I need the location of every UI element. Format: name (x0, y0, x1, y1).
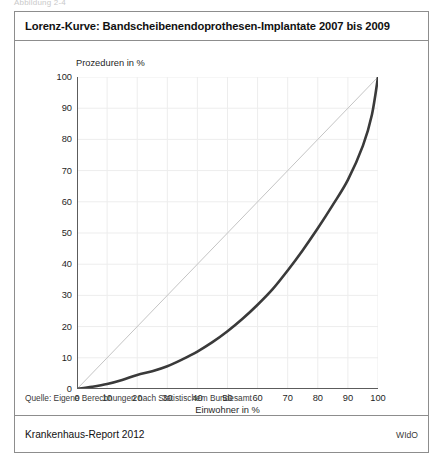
y-tick-30: 30 (62, 290, 72, 300)
y-tick-90: 90 (62, 103, 72, 113)
footer-publisher-label: WIdO (396, 430, 418, 440)
figure-box: Lorenz-Kurve: Bandscheibenendoprothesen-… (14, 11, 429, 453)
y-tick-60: 60 (62, 197, 72, 207)
chart-plot-area: 0102030405060708090100 01020304050607080… (77, 77, 378, 389)
figure-number-label: Abbildung 2-4 (14, 0, 66, 7)
plot-region: Prozeduren in % 0102030405060708090100 0… (15, 41, 428, 416)
x-axis-title: Einwohner in % (77, 405, 378, 415)
y-axis-title: Prozeduren in % (76, 58, 145, 68)
y-tick-40: 40 (62, 259, 72, 269)
y-tick-100: 100 (56, 72, 72, 82)
y-tick-50: 50 (62, 228, 72, 238)
source-note: Quelle: Eigene Berechnungen nach Statist… (25, 393, 252, 403)
y-tick-20: 20 (62, 322, 72, 332)
chart-axis-frame (77, 77, 378, 389)
x-tick-70: 70 (283, 393, 293, 403)
figure-container: Abbildung 2-4 Lorenz-Kurve: Bandscheiben… (0, 0, 443, 468)
y-tick-70: 70 (62, 166, 72, 176)
x-tick-100: 100 (370, 393, 386, 403)
footer-report-label: Krankenhaus-Report 2012 (25, 429, 145, 440)
x-tick-60: 60 (252, 393, 262, 403)
x-tick-90: 90 (343, 393, 353, 403)
x-tick-80: 80 (313, 393, 323, 403)
y-tick-80: 80 (62, 134, 72, 144)
figure-title: Lorenz-Kurve: Bandscheibenendoprothesen-… (25, 20, 390, 32)
figure-footer: Krankenhaus-Report 2012 WIdO (15, 415, 428, 453)
y-tick-10: 10 (62, 353, 72, 363)
figure-title-bar: Lorenz-Kurve: Bandscheibenendoprothesen-… (15, 12, 428, 41)
